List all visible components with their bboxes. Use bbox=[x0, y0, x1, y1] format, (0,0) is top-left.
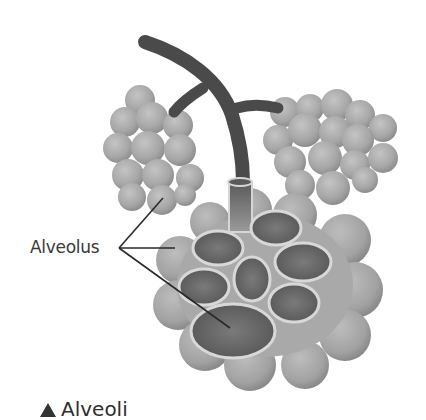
caption-text: Alveoli bbox=[61, 399, 128, 419]
triangle-up-icon bbox=[40, 403, 56, 417]
alveolus-label: Alveolus bbox=[30, 239, 99, 256]
alveoli-diagram bbox=[0, 0, 426, 420]
figure-caption: Alveoli bbox=[40, 399, 128, 419]
alveolar-duct bbox=[228, 178, 252, 232]
